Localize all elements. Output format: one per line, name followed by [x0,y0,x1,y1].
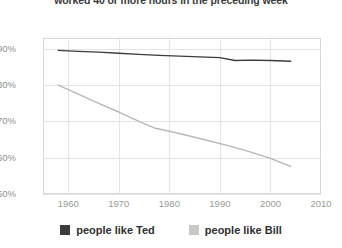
chart-title: worked 40 or more hours in the preceding… [0,0,342,6]
y-axis-tick-label: 80% [0,80,16,90]
series-line [58,85,291,166]
chart-legend: people like Ted people like Bill [0,224,342,236]
y-axis-tick-label: 60% [0,153,16,163]
legend-label-ted: people like Ted [76,224,155,236]
chart-container: worked 40 or more hours in the preceding… [0,0,342,248]
legend-item-bill[interactable]: people like Bill [189,224,282,236]
x-axis-tick-label: 2010 [299,198,342,209]
x-axis-tick-label: 1990 [198,198,242,209]
series-line [58,50,291,61]
x-axis-tick-label: 1960 [46,198,90,209]
y-axis-tick-label: 90% [0,44,16,54]
legend-label-bill: people like Bill [205,224,282,236]
y-axis-tick-label: 50% [0,189,16,199]
x-axis-tick-label: 1970 [97,198,141,209]
gridline-horizontal [43,194,321,195]
y-axis-tick-label: 70% [0,116,16,126]
x-axis-tick-label: 2000 [248,198,292,209]
series-layer [43,38,321,194]
legend-swatch-dark [60,225,70,235]
legend-item-ted[interactable]: people like Ted [60,224,155,236]
x-axis-tick-label: 1980 [147,198,191,209]
plot-area [43,38,321,194]
legend-swatch-light [189,225,199,235]
